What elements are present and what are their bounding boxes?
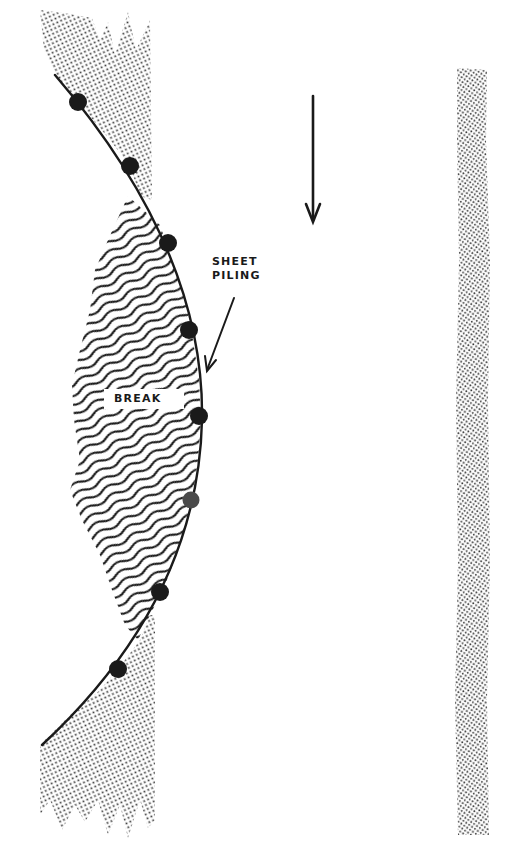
sheet-piling-label-line1: SHEET [212, 255, 261, 269]
washout-region [70, 196, 201, 640]
cut-off-caption [250, 0, 517, 3]
pile-7 [151, 583, 169, 601]
pile-4 [180, 321, 198, 339]
pile-8 [109, 660, 127, 678]
pile-3 [159, 234, 177, 252]
break-label: BREAK [108, 391, 167, 407]
sheet-piling-pointer-arrow [205, 298, 234, 371]
pile-2 [121, 157, 139, 175]
pile-6 [183, 492, 200, 509]
sheet-piling-illustration [0, 0, 517, 847]
pile-1 [69, 93, 87, 111]
lower-soil-region [40, 615, 155, 838]
sheet-piling-label-line2: PILING [212, 269, 261, 283]
sheet-piling-label: SHEET PILING [212, 255, 261, 283]
diagram-canvas: SHEET PILING BREAK [0, 0, 517, 847]
flow-direction-arrow [306, 96, 320, 222]
right-bank-strip [455, 68, 490, 835]
pile-5 [190, 407, 208, 425]
